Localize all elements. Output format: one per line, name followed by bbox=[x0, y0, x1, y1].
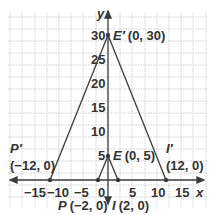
y-tick-label: 20 bbox=[91, 76, 105, 91]
label-P-prime-name: P′ bbox=[10, 141, 23, 156]
label-E: E(0, 5) bbox=[113, 148, 155, 163]
y-tick-label: 15 bbox=[91, 100, 105, 115]
y-tick-label: 30 bbox=[91, 28, 105, 43]
label-I: I(2, 0) bbox=[112, 198, 149, 213]
point-I-prime bbox=[164, 178, 168, 182]
y-tick-label: 5 bbox=[98, 148, 105, 163]
point-P-prime bbox=[48, 178, 52, 182]
point-I bbox=[116, 178, 120, 182]
label-P-prime-coords: (−12, 0) bbox=[10, 158, 55, 173]
x-tick-label: 10 bbox=[151, 185, 165, 200]
y-tick-label: 25 bbox=[91, 52, 105, 67]
coordinate-plane: −15 −10 −5 0 5 10 15 x 5 10 15 20 25 30 … bbox=[0, 0, 211, 215]
x-tick-label: 15 bbox=[175, 185, 189, 200]
point-P bbox=[96, 178, 100, 182]
label-E-prime: E′(0, 30) bbox=[113, 28, 165, 43]
y-tick-label: 10 bbox=[91, 124, 105, 139]
label-I-prime-coords: (12, 0) bbox=[166, 158, 204, 173]
y-axis-label: y bbox=[96, 6, 105, 21]
x-axis bbox=[10, 177, 204, 183]
label-I-prime-name: I′ bbox=[166, 141, 174, 156]
x-tick-label: −15 bbox=[24, 185, 46, 200]
point-E bbox=[106, 154, 110, 158]
x-axis-label: x bbox=[195, 185, 204, 200]
label-P: P(−2, 0) bbox=[58, 198, 108, 213]
point-E-prime bbox=[106, 33, 110, 37]
